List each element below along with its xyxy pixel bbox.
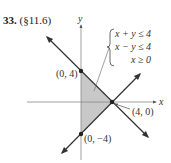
- inequality-2: x − y ≤ 4: [114, 41, 151, 52]
- label-4-0: (4, 0): [132, 106, 154, 118]
- inequality-1: x + y ≤ 4: [114, 28, 151, 39]
- label-0-neg4: (0, −4): [84, 133, 111, 145]
- graph: x y (0, 4) (4, 0) (0, −4) x + y ≤ 4 x − …: [0, 0, 171, 163]
- vertex-0-4: [79, 69, 83, 73]
- x-axis-label: x: [158, 96, 164, 107]
- system-brace: [107, 29, 114, 66]
- line-x-plus-y-eq-4: [47, 37, 148, 137]
- feasible-region: [81, 71, 112, 134]
- vertex-0-neg4: [79, 132, 83, 136]
- pointer-system-to-region: [94, 48, 109, 91]
- inequality-3: x ≥ 0: [130, 54, 151, 65]
- vertex-4-0: [110, 100, 114, 104]
- label-0-4: (0, 4): [56, 68, 78, 80]
- y-axis-label: y: [77, 13, 83, 24]
